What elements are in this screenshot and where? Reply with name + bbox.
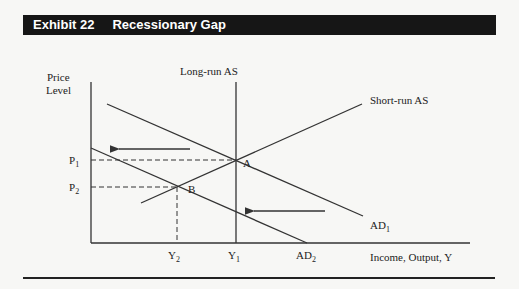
y-axis-label-line2: Level — [46, 84, 71, 96]
long-run-as-label: Long-run AS — [180, 65, 238, 77]
y1-tick-label: Y1 — [228, 249, 240, 264]
point-b-label: B — [188, 183, 195, 195]
y2-tick-label: Y2 — [168, 249, 180, 264]
ad2-label: AD2 — [296, 249, 316, 264]
p1-tick-label: P1 — [69, 154, 79, 169]
y-axis-label-line1: Price — [47, 71, 70, 83]
p2-tick-label: P2 — [69, 181, 79, 196]
ad1-label: AD1 — [370, 219, 390, 234]
short-run-as-curve — [141, 104, 362, 203]
recessionary-gap-chart: Price Level Long-run AS Short-run AS AD1… — [0, 0, 519, 289]
ad2-curve — [91, 148, 307, 243]
x-axis-label: Income, Output, Y — [370, 251, 452, 263]
short-run-as-label: Short-run AS — [370, 94, 428, 106]
point-a-label: A — [243, 157, 251, 169]
bottom-rule — [23, 277, 495, 279]
